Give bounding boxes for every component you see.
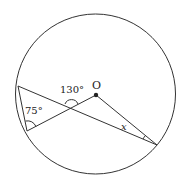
geometry-diagram: O 130° 75° x — [0, 0, 184, 182]
angle-arc-130 — [65, 100, 78, 104]
angle-arc-x — [143, 136, 146, 140]
angle-label-x: x — [121, 121, 127, 132]
center-label: O — [92, 79, 101, 92]
angle-arc-75 — [26, 121, 37, 127]
angle-label-75: 75° — [25, 105, 43, 116]
angle-label-130: 130° — [60, 84, 84, 95]
center-point — [94, 93, 98, 97]
segment-oc — [96, 95, 157, 145]
